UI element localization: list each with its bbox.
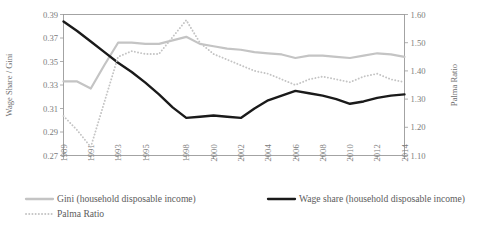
x-tick-label: 2010 (345, 144, 355, 161)
x-tick-label: 2008 (318, 144, 328, 161)
y-axis-right: 1.101.201.301.401.501.60 (405, 10, 426, 161)
y-tick-label-right: 1.50 (411, 38, 426, 48)
y-tick-label-right: 1.30 (411, 94, 426, 104)
chart-legend: Gini (household disposable income)Wage s… (26, 193, 465, 219)
x-tick-label: 2000 (209, 144, 219, 161)
y-tick-label-right: 1.10 (411, 151, 426, 161)
y-axis-left: 0.270.290.310.330.350.370.39 (43, 10, 64, 161)
y-tick-label-left: 0.29 (43, 127, 58, 137)
x-tick-label: 1993 (113, 144, 123, 161)
y-tick-label-left: 0.35 (43, 57, 58, 67)
y-tick-label-left: 0.39 (43, 10, 58, 20)
y-axis-right-title: Palma Ratio (449, 64, 459, 106)
x-axis: 1989199119931995199820002002200420062008… (59, 144, 410, 162)
y-tick-label-left: 0.37 (43, 33, 59, 43)
y-tick-label-right: 1.60 (411, 10, 426, 20)
y-tick-label-right: 1.40 (411, 66, 426, 76)
line-chart: 0.270.290.310.330.350.370.39 1.101.201.3… (0, 0, 490, 228)
plot-area-border (64, 15, 405, 156)
legend-label: Wage share (household disposable income) (299, 193, 465, 205)
x-tick-label: 1998 (181, 144, 191, 161)
x-tick-label: 2004 (263, 144, 273, 162)
x-tick-label: 2014 (400, 144, 410, 162)
legend-label: Gini (household disposable income) (57, 193, 196, 205)
legend-label: Palma Ratio (57, 208, 104, 219)
x-tick-label: 1995 (141, 144, 151, 161)
x-tick-label: 2006 (291, 144, 301, 162)
y-tick-label-left: 0.33 (43, 80, 58, 90)
series-line-2 (64, 20, 405, 147)
x-tick-label: 2002 (236, 144, 246, 161)
y-tick-label-right: 1.20 (411, 122, 426, 132)
chart-container: 0.270.290.310.330.350.370.39 1.101.201.3… (0, 0, 490, 228)
plot-frame (64, 15, 405, 156)
data-series-group (64, 20, 405, 147)
x-tick-label: 1989 (59, 144, 69, 161)
y-tick-label-left: 0.31 (43, 104, 58, 114)
x-tick-label: 2012 (372, 144, 382, 161)
y-tick-label-left: 0.27 (43, 151, 59, 161)
y-axis-left-title: Wage Share / Gini (4, 53, 14, 117)
